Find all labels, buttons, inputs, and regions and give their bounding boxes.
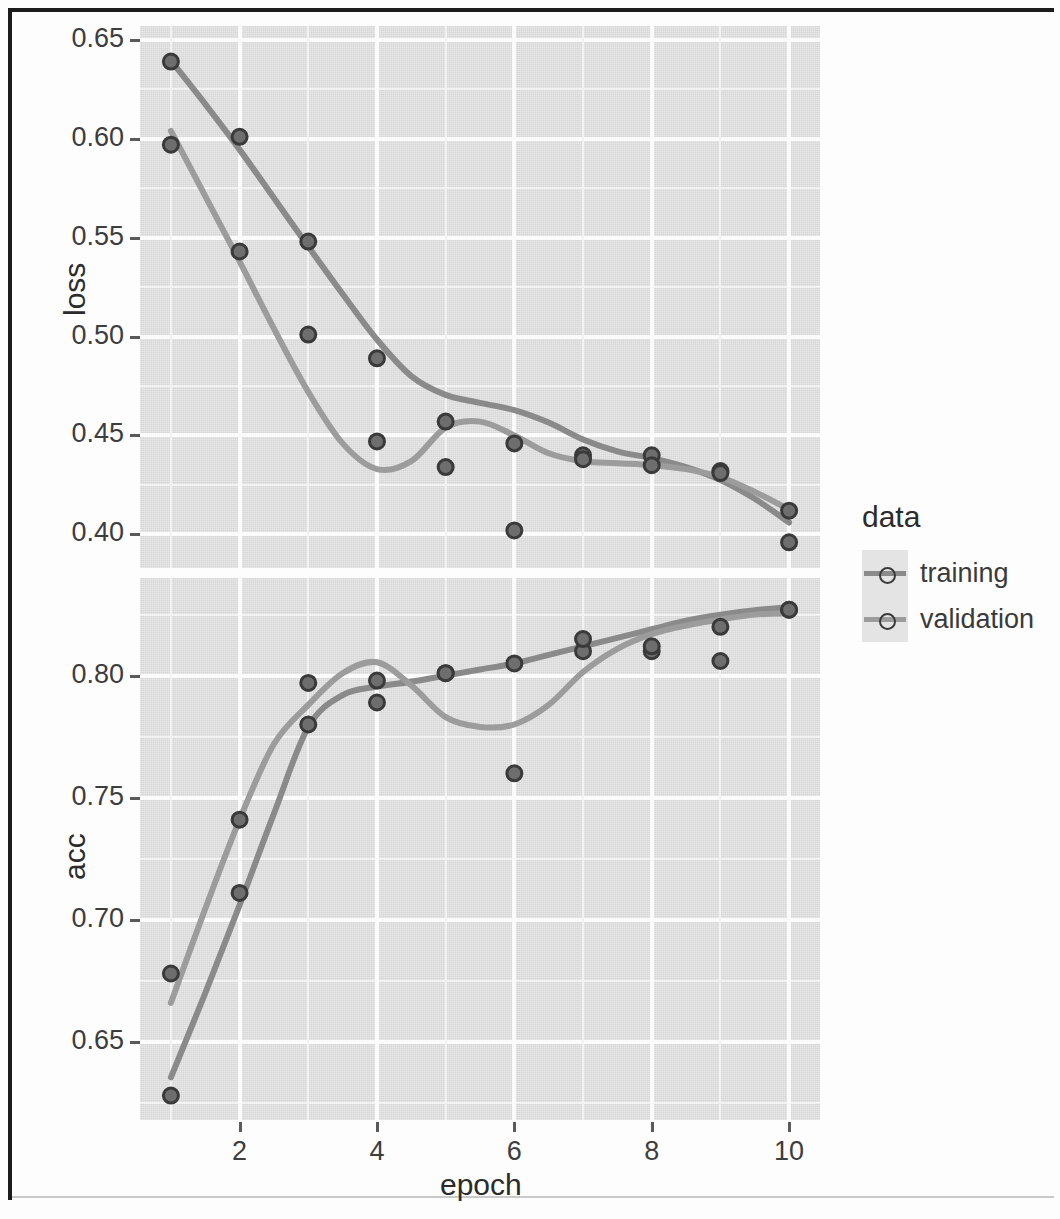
legend-label-validation: validation (920, 604, 1034, 635)
data-point-validation (232, 244, 247, 259)
panel-loss (140, 26, 820, 568)
fit-line-training (171, 607, 789, 1077)
y-tick-mark (130, 675, 140, 678)
y-tick-mark (130, 434, 140, 437)
data-point-validation (163, 137, 178, 152)
x-tick-mark (376, 1122, 379, 1132)
y-tick-label: 0.55 (62, 221, 124, 252)
y-tick-mark (130, 138, 140, 141)
data-point-training (301, 234, 316, 249)
y-tick-label: 0.40 (62, 517, 124, 548)
data-point-validation (644, 458, 659, 473)
data-point-training (232, 885, 247, 900)
y-tick-label: 0.65 (62, 23, 124, 54)
data-point-validation (507, 523, 522, 538)
data-point-training (507, 656, 522, 671)
x-tick-mark (239, 1122, 242, 1132)
data-point-validation (782, 535, 797, 550)
y-tick-label: 0.50 (62, 320, 124, 351)
y-tick-label: 0.80 (62, 659, 124, 690)
x-tick-mark (651, 1122, 654, 1132)
data-point-validation (713, 466, 728, 481)
y-tick-label: 0.65 (62, 1025, 124, 1056)
data-point-validation (301, 327, 316, 342)
data-point-training (369, 351, 384, 366)
x-axis-title: epoch (440, 1168, 522, 1202)
y-tick-mark (130, 237, 140, 240)
data-point-validation (782, 602, 797, 617)
panel-acc (140, 578, 820, 1120)
data-point-validation (301, 675, 316, 690)
legend-item-training[interactable]: training (862, 550, 1052, 596)
data-point-training (369, 695, 384, 710)
x-tick-label: 4 (337, 1136, 417, 1167)
y-tick-label: 0.75 (62, 781, 124, 812)
y-tick-mark (130, 919, 140, 922)
fit-line-training (171, 61, 789, 523)
data-point-validation (644, 639, 659, 654)
y-tick-label: 0.45 (62, 418, 124, 449)
data-point-validation (576, 632, 591, 647)
x-tick-label: 10 (749, 1136, 829, 1167)
data-point-training (713, 619, 728, 634)
data-point-validation (369, 434, 384, 449)
y-tick-label: 0.70 (62, 903, 124, 934)
training-history-figure: 0.650.600.550.500.450.40 loss 0.800.750.… (0, 0, 1060, 1219)
data-point-training (782, 503, 797, 518)
legend-title: data (862, 500, 1052, 534)
panel-acc-series (140, 578, 820, 1120)
data-point-training (163, 1088, 178, 1103)
data-point-training (438, 414, 453, 429)
y-axis-title-loss: loss (58, 263, 92, 316)
data-point-validation (438, 460, 453, 475)
y-tick-mark (130, 1041, 140, 1044)
data-point-training (507, 436, 522, 451)
scanned-figure-page: 0.650.600.550.500.450.40 loss 0.800.750.… (0, 0, 1060, 1219)
y-tick-mark (130, 39, 140, 42)
data-point-validation (507, 766, 522, 781)
data-point-training (163, 54, 178, 69)
data-point-validation (713, 654, 728, 669)
y-tick-mark (130, 336, 140, 339)
legend-label-training: training (920, 558, 1009, 589)
data-point-validation (438, 666, 453, 681)
data-point-validation (576, 452, 591, 467)
y-tick-mark (130, 533, 140, 536)
x-tick-label: 6 (474, 1136, 554, 1167)
x-tick-label: 8 (612, 1136, 692, 1167)
x-tick-mark (788, 1122, 791, 1132)
data-point-validation (163, 966, 178, 981)
y-tick-label: 0.60 (62, 122, 124, 153)
legend: data training validation (862, 500, 1052, 642)
data-point-training (232, 129, 247, 144)
data-point-validation (369, 673, 384, 688)
x-tick-mark (513, 1122, 516, 1132)
data-point-training (301, 717, 316, 732)
legend-item-validation[interactable]: validation (862, 596, 1052, 642)
legend-key-validation (862, 596, 908, 642)
x-tick-label: 2 (200, 1136, 280, 1167)
panel-loss-series (140, 26, 820, 568)
data-point-validation (232, 812, 247, 827)
y-axis-title-acc: acc (58, 833, 92, 880)
legend-key-training (862, 550, 908, 596)
y-tick-mark (130, 797, 140, 800)
